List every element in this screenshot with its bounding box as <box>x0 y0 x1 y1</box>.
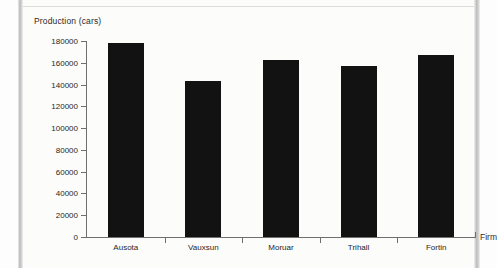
y-axis-tick-label: 140000 <box>51 80 78 89</box>
x-axis-line <box>86 237 476 238</box>
x-axis-tick-label: Trihall <box>348 243 369 252</box>
y-axis-tick <box>81 41 86 42</box>
x-axis-tick <box>165 238 166 243</box>
x-axis-tick <box>397 238 398 243</box>
y-axis-tick-label: 40000 <box>56 189 78 198</box>
y-axis-tick-label: 120000 <box>51 102 78 111</box>
y-axis-tick <box>81 172 86 173</box>
x-axis-tick-label: Moruar <box>268 243 293 252</box>
y-axis-tick-labels: 0200004000060000800001000001200001400001… <box>23 0 78 268</box>
y-axis-tick <box>81 215 86 216</box>
y-axis-tick-label: 100000 <box>51 124 78 133</box>
bar <box>418 55 454 237</box>
x-axis-tick-label: Ausota <box>113 243 138 252</box>
bar <box>185 81 221 237</box>
page-right-edge <box>474 0 480 268</box>
y-axis-tick-label: 80000 <box>56 145 78 154</box>
bar <box>341 66 377 237</box>
bar <box>263 60 299 237</box>
y-axis-tick <box>81 85 86 86</box>
y-axis-tick <box>81 237 86 238</box>
y-axis-line <box>86 41 87 237</box>
y-axis-tick-label: 160000 <box>51 58 78 67</box>
x-axis-tick-label: Fortin <box>426 243 446 252</box>
y-axis-tick-label: 180000 <box>51 37 78 46</box>
y-axis-tick-label: 60000 <box>56 167 78 176</box>
x-axis-title: Firm <box>480 232 497 242</box>
y-axis-tick <box>81 193 86 194</box>
y-axis-tick-label: 20000 <box>56 211 78 220</box>
x-axis-tick-label: Vauxsun <box>188 243 219 252</box>
x-axis-tick <box>242 238 243 243</box>
bar-chart: Production (cars) 0200004000060000800001… <box>23 0 474 268</box>
y-axis-tick <box>81 128 86 129</box>
chart-page: Production (cars) 0200004000060000800001… <box>0 0 497 268</box>
y-axis-tick <box>81 106 86 107</box>
bar <box>108 43 144 237</box>
x-axis-end-tick <box>475 232 476 238</box>
y-axis-tick-label: 0 <box>74 233 78 242</box>
y-axis-tick <box>81 150 86 151</box>
y-axis-tick <box>81 63 86 64</box>
x-axis-tick <box>320 238 321 243</box>
